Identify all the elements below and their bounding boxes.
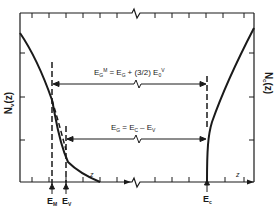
- eg-gap-equation: EG= EC– EV: [111, 123, 156, 133]
- left-ticks: [20, 53, 25, 140]
- conduction-band-curve: [207, 28, 254, 182]
- left-axis-label: Nv(z): [3, 92, 15, 114]
- z-label-right: z: [235, 171, 240, 178]
- valence-band-curve: [20, 33, 100, 182]
- bottom-ticks: [32, 177, 244, 182]
- eg-gap-arrow: [67, 135, 206, 143]
- z-label-left: z: [89, 171, 94, 178]
- right-axis-label: Nc(z): [262, 72, 274, 94]
- plot-frame: [20, 9, 254, 187]
- em-gap-equation: EGM= EG+ (3/2) E0V: [94, 67, 165, 78]
- marker-ev: EV: [62, 196, 72, 207]
- em-gap-arrow: [53, 80, 206, 88]
- band-diagram: Nv(z) Nc(z) EGM= EG+ (3/2) E0V EG= EC– E…: [0, 0, 274, 209]
- right-ticks: [249, 53, 254, 140]
- marker-em: EM: [47, 196, 57, 207]
- marker-ec: Ec: [203, 194, 212, 205]
